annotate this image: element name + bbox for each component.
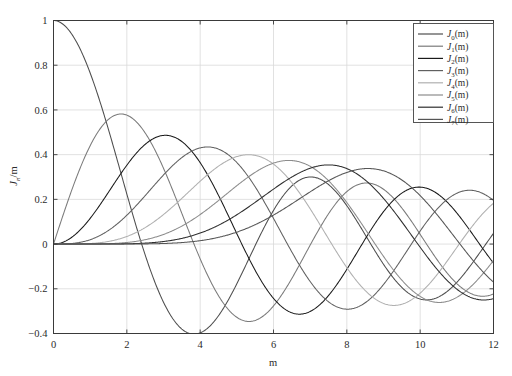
y-tick-label: −0.2 <box>28 283 47 294</box>
legend-label-J6(m): J6(m) <box>447 103 468 115</box>
bessel-function-plot: 024681012 −0.4−0.200.20.40.60.81 m Jn/m … <box>0 0 512 376</box>
x-tick-label: 2 <box>124 339 129 350</box>
figure-canvas: 024681012 −0.4−0.200.20.40.60.81 m Jn/m … <box>0 0 512 376</box>
y-tick-label: 1 <box>42 15 47 26</box>
x-tick-label: 0 <box>51 339 56 350</box>
legend-label-J7(m): J7(m) <box>447 115 468 127</box>
legend-label-J5(m): J5(m) <box>447 90 468 102</box>
legend[interactable]: J0(m)J1(m)J2(m)J3(m)J4(m)J5(m)J6(m)J7(m) <box>414 24 494 127</box>
legend-label-J0(m): J0(m) <box>447 29 468 41</box>
x-axis-label: m <box>269 357 277 368</box>
x-tick-label: 4 <box>198 339 204 350</box>
x-tick-label: 10 <box>415 339 426 350</box>
y-tick-label: 0.6 <box>34 105 47 116</box>
legend-label-J4(m): J4(m) <box>447 78 468 90</box>
y-tick-label: 0.4 <box>34 149 48 160</box>
legend-label-J1(m): J1(m) <box>447 42 468 54</box>
y-tick-label: 0.8 <box>34 60 47 71</box>
y-tick-label: −0.4 <box>28 328 48 339</box>
x-tick-label: 6 <box>271 339 276 350</box>
y-tick-label: 0 <box>42 239 47 250</box>
x-tick-label: 8 <box>344 339 349 350</box>
legend-label-J2(m): J2(m) <box>447 54 468 66</box>
legend-label-J3(m): J3(m) <box>447 66 468 78</box>
x-tick-label: 12 <box>488 339 499 350</box>
y-tick-label: 0.2 <box>34 194 47 205</box>
